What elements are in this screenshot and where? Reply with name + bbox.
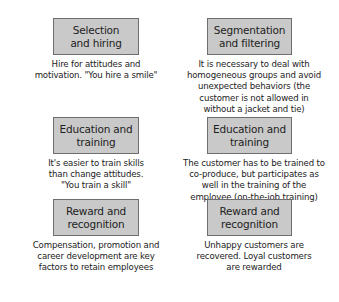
desc-line: homogeneous groups and avoid	[172, 70, 336, 81]
desc-selection-and-hiring: Hire for attitudes and motivation. "You …	[20, 59, 172, 81]
desc-line: career development are key	[14, 251, 178, 262]
desc-line: well in the training of the	[170, 180, 338, 191]
desc-line: It is necessary to deal with	[172, 59, 336, 70]
desc-reward-and-recognition-customer: Unhappy customers are recovered. Loyal c…	[172, 240, 336, 274]
box-title-line: training	[60, 136, 133, 149]
box-reward-and-recognition-employee: Reward and recognition	[53, 199, 139, 236]
box-education-and-training-employee: Education and training	[53, 117, 139, 154]
desc-education-and-training-customer: The customer has to be trained to co-pro…	[170, 158, 338, 203]
desc-line: motivation. "You hire a smile"	[20, 70, 172, 81]
box-title-line: Reward and	[219, 205, 279, 218]
box-title-line: Reward and	[66, 205, 126, 218]
box-reward-and-recognition-customer: Reward and recognition	[207, 199, 292, 236]
desc-line: It's easier to train skills	[20, 158, 172, 169]
box-title-line: Education and	[213, 123, 286, 136]
box-title-line: Education and	[60, 123, 133, 136]
desc-line: than change attitudes.	[20, 169, 172, 180]
desc-line: without a jacket and tie)	[172, 104, 336, 115]
desc-segmentation-and-filtering: It is necessary to deal with homogeneous…	[172, 59, 336, 115]
box-segmentation-and-filtering: Segmentation and filtering	[207, 18, 292, 55]
desc-line: Compensation, promotion and	[14, 240, 178, 251]
desc-line: co-produce, but participates as	[170, 169, 338, 180]
box-title-line: training	[213, 136, 286, 149]
box-education-and-training-customer: Education and training	[207, 117, 292, 154]
box-selection-and-hiring: Selection and hiring	[53, 18, 139, 55]
desc-education-and-training-employee: It's easier to train skills than change …	[20, 158, 172, 192]
box-title-line: Selection	[70, 24, 121, 37]
box-title-line: recognition	[219, 218, 279, 231]
box-title-line: and filtering	[214, 37, 285, 50]
desc-line: The customer has to be trained to	[170, 158, 338, 169]
box-title-line: and hiring	[70, 37, 121, 50]
desc-line: are rewarded	[172, 262, 336, 273]
desc-line: Hire for attitudes and	[20, 59, 172, 70]
desc-line: customer is not allowed in	[172, 93, 336, 104]
desc-line: unexpected behaviors (the	[172, 81, 336, 92]
desc-line: Unhappy customers are	[172, 240, 336, 251]
desc-line: factors to retain employees	[14, 262, 178, 273]
desc-line: recovered. Loyal customers	[172, 251, 336, 262]
box-title-line: recognition	[66, 218, 126, 231]
box-title-line: Segmentation	[214, 24, 285, 37]
desc-reward-and-recognition-employee: Compensation, promotion and career devel…	[14, 240, 178, 274]
desc-line: "You train a skill"	[20, 180, 172, 191]
